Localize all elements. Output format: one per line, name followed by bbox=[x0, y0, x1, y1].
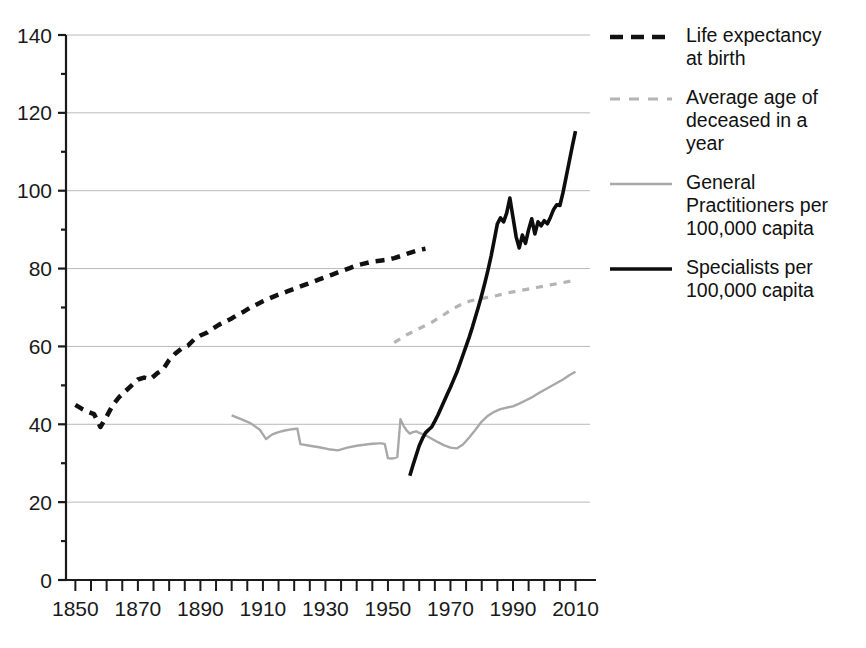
x-tick-label: 1970 bbox=[427, 597, 474, 620]
legend-label: General Practitioners per 100,000 capita bbox=[686, 171, 828, 240]
legend-swatch-dashed-grey-icon bbox=[610, 86, 672, 112]
legend-entry[interactable]: Life expectancy at birth bbox=[610, 24, 860, 70]
y-axis bbox=[58, 35, 66, 580]
legend-entry[interactable]: Specialists per 100,000 capita bbox=[610, 256, 860, 302]
legend-label: Life expectancy at birth bbox=[686, 24, 822, 70]
y-tick-label: 120 bbox=[17, 101, 52, 124]
legend-label: Specialists per 100,000 capita bbox=[686, 256, 814, 302]
x-tick-label: 1990 bbox=[490, 597, 537, 620]
y-tick-label: 140 bbox=[17, 24, 52, 47]
x-tick-label: 1950 bbox=[365, 597, 412, 620]
legend-entry[interactable]: General Practitioners per 100,000 capita bbox=[610, 171, 860, 240]
y-tick-label: 40 bbox=[29, 413, 52, 436]
series-line-0 bbox=[75, 249, 425, 427]
chart-container: 020406080100120140 185018701890191019301… bbox=[0, 0, 866, 648]
x-tick-label: 1850 bbox=[52, 597, 99, 620]
legend-swatch-dashed-black-thick-icon bbox=[610, 24, 672, 50]
x-tick-label: 1890 bbox=[177, 597, 224, 620]
y-tick-labels: 020406080100120140 bbox=[17, 24, 52, 592]
x-tick-label: 1930 bbox=[302, 597, 349, 620]
x-tick-label: 1910 bbox=[240, 597, 287, 620]
y-tick-label: 0 bbox=[40, 569, 52, 592]
series-line-2 bbox=[232, 372, 576, 459]
x-axis bbox=[58, 580, 596, 591]
gridlines bbox=[66, 35, 590, 502]
legend-label: Average age of deceased in a year bbox=[686, 86, 818, 155]
y-tick-label: 60 bbox=[29, 335, 52, 358]
y-tick-label: 100 bbox=[17, 179, 52, 202]
x-tick-label: 1870 bbox=[115, 597, 162, 620]
legend-entry[interactable]: Average age of deceased in a year bbox=[610, 86, 860, 155]
legend-swatch-solid-black-thick-icon bbox=[610, 256, 672, 282]
x-tick-labels: 185018701890191019301950197019902010 bbox=[52, 597, 599, 620]
y-tick-label: 20 bbox=[29, 491, 52, 514]
legend-swatch-solid-grey-thin-icon bbox=[610, 171, 672, 197]
x-tick-label: 2010 bbox=[552, 597, 599, 620]
y-tick-label: 80 bbox=[29, 257, 52, 280]
chart-legend: Life expectancy at birthAverage age of d… bbox=[610, 24, 860, 318]
